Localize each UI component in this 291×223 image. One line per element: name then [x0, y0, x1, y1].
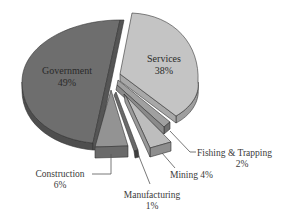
label-mining: Mining 4% — [170, 170, 213, 180]
pie-chart: Government 49% Services 38% Fishing & Tr… — [0, 0, 291, 223]
label-services-pct: 38% — [155, 65, 173, 76]
label-construction-name: Construction — [35, 169, 84, 179]
label-government-name: Government — [42, 65, 92, 76]
label-services-name: Services — [147, 53, 181, 64]
label-manufacturing-name: Manufacturing — [124, 190, 181, 200]
label-manufacturing-pct: 1% — [146, 201, 159, 211]
label-fishing-pct: 2% — [236, 159, 249, 169]
label-government-pct: 49% — [58, 77, 76, 88]
label-construction-pct: 6% — [54, 180, 67, 190]
leader-fishing — [170, 131, 196, 152]
label-fishing-name: Fishing & Trapping — [197, 148, 272, 158]
leader-mining — [162, 153, 175, 168]
leader-manufacturing — [138, 154, 150, 184]
